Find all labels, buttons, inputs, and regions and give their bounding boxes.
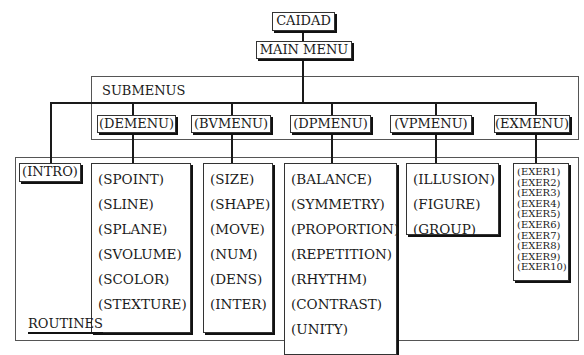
submenu-vpmenu: (VPMENU) — [390, 115, 472, 133]
routine-list-bvmenu: (SIZE) (SHAPE) (MOVE) (NUM) (DENS) (INTE… — [203, 163, 273, 333]
routines-label: ROUTINES — [28, 316, 103, 334]
routine-item: (SCOLOR) — [98, 267, 190, 292]
routine-item: (STEXTURE) — [98, 292, 190, 317]
routine-item: (SVOLUME) — [98, 242, 190, 267]
connector-bvmenu-up — [231, 102, 233, 116]
routine-item: (DENS) — [210, 267, 272, 292]
routine-item: (PROPORTION) — [291, 217, 396, 242]
routine-intro: (INTRO) — [19, 163, 81, 182]
routine-item: (EXER10) — [517, 262, 568, 273]
routine-item: (ILLUSION) — [413, 167, 498, 192]
routine-item: (SIZE) — [210, 167, 272, 192]
connector-bvmenu-down — [231, 131, 233, 164]
submenu-demenu: (DEMENU) — [97, 115, 176, 133]
routine-item: (GROUP) — [413, 217, 498, 242]
connector-exmenu-down — [535, 131, 537, 164]
routine-item: (SPOINT) — [98, 167, 190, 192]
routine-item: (MOVE) — [210, 217, 272, 242]
connector-vpmenu-down — [435, 131, 437, 164]
routine-item: (SYMMETRY) — [291, 192, 396, 217]
connector-demenu-down — [132, 131, 134, 164]
connector-intro — [50, 102, 52, 164]
connector-exmenu-up — [535, 102, 537, 116]
submenus-label: SUBMENUS — [102, 83, 185, 98]
routine-item: (NUM) — [210, 242, 272, 267]
connector-dpmenu-down — [331, 131, 333, 164]
routine-item: (RHYTHM) — [291, 267, 396, 292]
main-menu-box: MAIN MENU — [256, 41, 352, 59]
connector-dpmenu-up — [331, 102, 333, 116]
routine-list-demenu: (SPOINT) (SLINE) (SPLANE) (SVOLUME) (SCO… — [91, 163, 191, 333]
routine-item: (SPLANE) — [98, 217, 190, 242]
submenu-dpmenu: (DPMENU) — [290, 115, 371, 133]
routine-item: (SLINE) — [98, 192, 190, 217]
submenu-exmenu: (EXMENU) — [494, 115, 570, 133]
routine-list-dpmenu: (BALANCE) (SYMMETRY) (PROPORTION) (REPET… — [284, 163, 397, 355]
routine-item: (INTER) — [210, 292, 272, 317]
connector-vpmenu-up — [435, 102, 437, 116]
routine-list-vpmenu: (ILLUSION) (FIGURE) (GROUP) — [406, 163, 499, 235]
routine-item: (SHAPE) — [210, 192, 272, 217]
submenu-bvmenu: (BVMENU) — [191, 115, 271, 133]
routine-item: (EXER6) — [517, 220, 568, 231]
routine-item: (UNITY) — [291, 317, 396, 342]
connector-bus — [50, 102, 536, 104]
routine-item: (FIGURE) — [413, 192, 498, 217]
routine-item: (CONTRAST) — [291, 292, 396, 317]
connector-mainmenu-bus — [302, 56, 304, 104]
caidad-box: CAIDAD — [272, 12, 335, 31]
routine-item: (REPETITION) — [291, 242, 396, 267]
routine-item: (EXER1) — [517, 167, 568, 178]
connector-demenu-up — [132, 102, 134, 116]
routine-list-exmenu: (EXER1) (EXER2) (EXER3) (EXER4) (EXER5) … — [513, 163, 569, 281]
routine-item: (BALANCE) — [291, 167, 396, 192]
